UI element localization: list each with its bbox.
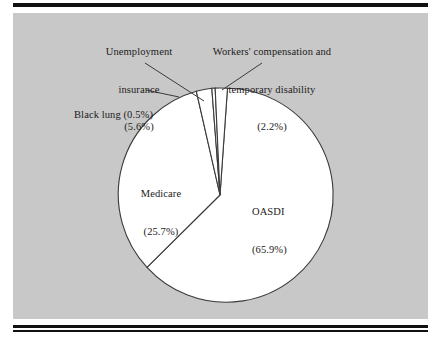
slice-label-oasdi-value: (65.9%)	[252, 244, 322, 257]
callout-label-black-lung: Black lung (0.5%)	[30, 84, 153, 147]
callout-label-workers-comp-line3: (2.2%)	[196, 121, 348, 134]
callout-label-unemployment-line1: Unemployment	[80, 46, 198, 59]
callout-label-workers-comp-line2: temporary disability	[196, 84, 348, 97]
figure-bottom-rule-thick	[13, 325, 428, 328]
slice-label-oasdi: OASDI (65.9%)	[252, 181, 322, 281]
callout-label-workers-comp: Workers' compensation and temporary disa…	[196, 21, 348, 159]
figure-bottom-rule-thin	[13, 330, 428, 332]
slice-label-medicare-value: (25.7%)	[120, 226, 202, 239]
slice-label-medicare: Medicare (25.7%)	[120, 163, 202, 263]
callout-label-workers-comp-line1: Workers' compensation and	[196, 46, 348, 59]
slice-label-medicare-name: Medicare	[120, 188, 202, 201]
callout-label-black-lung-line1: Black lung (0.5%)	[30, 109, 153, 122]
figure-page: Unemployment insurance (5.6%) Workers' c…	[0, 0, 441, 339]
slice-label-oasdi-name: OASDI	[252, 206, 322, 219]
